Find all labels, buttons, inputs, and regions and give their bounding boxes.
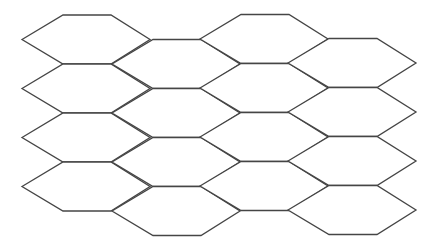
hexagon-grid-diagram: [0, 0, 448, 251]
